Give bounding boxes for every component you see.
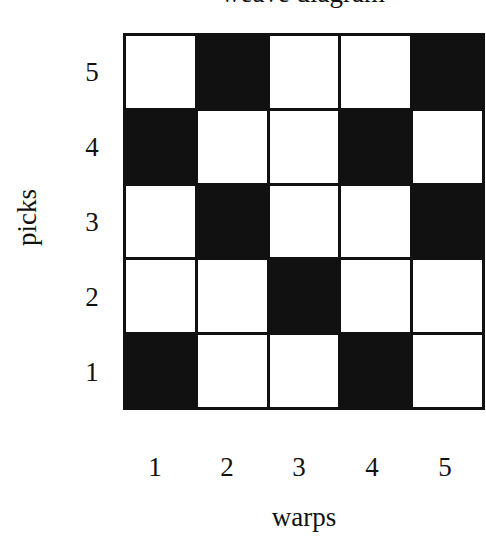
empty-cell [270,186,339,258]
filled-cell [198,36,267,108]
filled-cell [126,111,195,183]
y-axis-title: picks [12,183,43,253]
x-tick-label: 1 [140,452,170,483]
empty-cell [341,260,410,332]
empty-cell [270,36,339,108]
filled-cell [341,335,410,407]
y-tick-label: 1 [82,357,102,388]
empty-cell [341,186,410,258]
empty-cell [198,111,267,183]
empty-cell [413,111,482,183]
y-tick-label: 3 [82,207,102,238]
filled-cell [126,335,195,407]
empty-cell [413,260,482,332]
empty-cell [198,260,267,332]
empty-cell [126,186,195,258]
filled-cell [413,36,482,108]
filled-cell [198,186,267,258]
y-tick-label: 2 [82,282,102,313]
empty-cell [126,260,195,332]
x-tick-label: 4 [357,452,387,483]
filled-cell [341,111,410,183]
empty-cell [270,111,339,183]
filled-cell [413,186,482,258]
empty-cell [270,335,339,407]
empty-cell [198,335,267,407]
empty-cell [413,335,482,407]
weave-grid [123,33,485,410]
x-tick-label: 2 [212,452,242,483]
x-axis-title: warps [123,502,485,533]
diagram-title: weave diagram [0,0,486,9]
y-tick-label: 4 [82,132,102,163]
empty-cell [126,36,195,108]
x-tick-label: 5 [430,452,460,483]
filled-cell [270,260,339,332]
y-tick-label: 5 [82,57,102,88]
empty-cell [341,36,410,108]
x-tick-label: 3 [284,452,314,483]
